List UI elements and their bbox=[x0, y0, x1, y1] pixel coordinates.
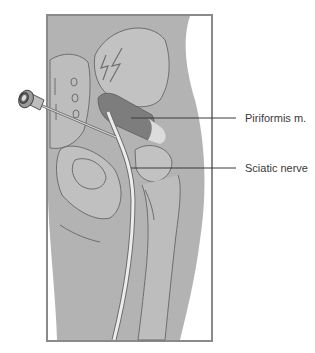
anatomy-illustration bbox=[0, 0, 315, 353]
femur-head bbox=[135, 146, 172, 182]
label-sciatic-nerve: Sciatic nerve bbox=[245, 162, 308, 174]
label-piriformis: Piriformis m. bbox=[245, 112, 306, 124]
needle-hub-icon bbox=[16, 88, 44, 110]
